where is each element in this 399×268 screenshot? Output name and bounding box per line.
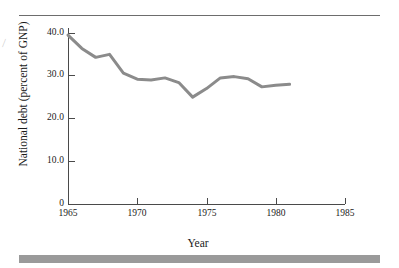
y-axis-line — [68, 28, 69, 205]
x-axis-tick — [207, 198, 208, 204]
x-axis-tick — [276, 198, 277, 204]
x-axis-tick — [345, 198, 346, 204]
x-tick-label: 1965 — [48, 208, 88, 218]
bottom-gray-bar — [19, 255, 380, 263]
x-axis-line — [68, 204, 345, 205]
x-tick-label: 1975 — [187, 208, 227, 218]
y-tick-label: 20.0 — [47, 113, 64, 123]
y-axis-tick — [69, 204, 75, 205]
x-axis-title: Year — [158, 236, 238, 250]
y-tick-label: 10.0 — [47, 156, 64, 166]
y-axis-tick — [69, 118, 75, 119]
y-axis-tick — [69, 33, 75, 34]
x-tick-label: 1970 — [117, 208, 157, 218]
y-axis-tick — [69, 75, 75, 76]
figure-container: ⁄ 0 10.0 20.0 30.0 40.0 1965 1970 1975 1… — [0, 0, 399, 268]
data-series-line — [0, 0, 399, 268]
x-axis-tick — [68, 198, 69, 204]
top-divider-rule — [19, 15, 380, 16]
x-axis-tick — [137, 198, 138, 204]
x-tick-label: 1985 — [325, 208, 365, 218]
scan-edge-artifact: ⁄ — [2, 35, 12, 48]
y-tick-label: 30.0 — [47, 70, 64, 80]
y-tick-label: 40.0 — [47, 28, 64, 38]
y-axis-title: National debt (percent of GNP) — [15, 0, 31, 189]
x-tick-label: 1980 — [256, 208, 296, 218]
y-axis-tick — [69, 161, 75, 162]
